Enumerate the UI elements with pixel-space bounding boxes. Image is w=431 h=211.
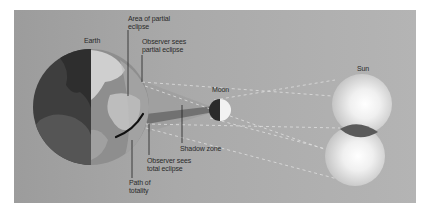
shadow-zone-label: Shadow zone [180, 145, 221, 153]
eclipse-illustration [0, 0, 431, 211]
observer-total-eclipse-label: Observer sees total eclipse [147, 157, 191, 173]
observer-partial-eclipse-label: Observer sees partial eclipse [142, 38, 186, 54]
moon-label: Moon [212, 86, 229, 94]
area-partial-eclipse-label: Area of partial eclipse [128, 15, 170, 31]
earth-label: Earth [84, 37, 100, 45]
sun-label: Sun [357, 65, 369, 73]
path-of-totality-label: Path of totality [129, 179, 150, 195]
moon [209, 99, 231, 121]
